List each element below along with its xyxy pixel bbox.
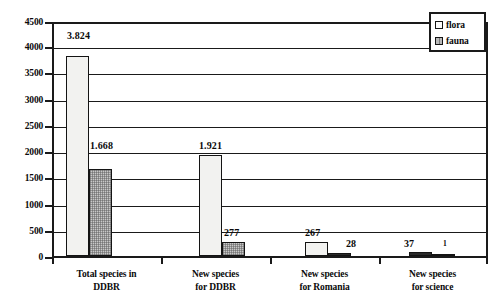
y-tick-mark [45,126,52,128]
legend-item-flora[interactable]: flora [435,17,484,33]
y-tick-label: 500 [29,225,43,238]
x-category-line1: New species [409,269,456,279]
bar-fauna-total-species[interactable] [89,169,112,257]
x-tick-3 [379,258,381,264]
y-tick-mark [45,205,52,207]
y-tick-label: 2500 [25,120,43,133]
value-label-flora-new-ddbr: 1.921 [199,140,222,152]
legend-item-fauna[interactable]: fauna [435,33,484,49]
value-label-fauna-new-romania: 28 [346,238,356,250]
x-tick-2 [270,258,272,264]
legend-label-fauna: fauna [446,35,469,47]
y-tick-label: 4000 [25,41,43,54]
value-label-fauna-new-ddbr: 277 [224,227,239,239]
y-tick-mark [45,231,52,233]
y-tick-mark [45,100,52,102]
value-label-flora-total-species: 3.824 [67,30,90,42]
bar-fauna-new-science[interactable] [432,254,455,256]
x-category-line1: Total species in [77,269,137,279]
y-tick-mark [45,73,52,75]
y-tick-label: 3500 [25,67,43,80]
y-tick-label: 1500 [25,172,43,185]
bar-flora-new-ddbr[interactable] [199,155,222,256]
x-category-line2: for DDBR [161,281,270,294]
legend-label-flora: flora [446,19,465,31]
bar-fauna-new-romania[interactable] [328,253,351,257]
bar-fauna-new-ddbr[interactable] [222,242,245,257]
bar-flora-new-romania[interactable] [305,242,328,256]
bar-flora-new-science[interactable] [409,252,432,256]
y-axis: 0 500 1000 1500 2000 2500 3000 3500 [0,22,52,258]
x-category-line1: New species [192,269,239,279]
value-label-fauna-new-science: 1 [443,238,447,250]
x-category-line1: New species [301,269,348,279]
x-tick-1 [161,258,163,264]
x-category-label-new-science: New species for science [379,268,486,294]
y-tick-label: 2000 [25,146,43,159]
y-tick-mark [45,152,52,154]
flora-swatch-icon [435,21,443,29]
y-tick-mark [45,178,52,180]
bars-layer [52,22,488,258]
x-category-label-total-species: Total species in DDBR [52,268,161,294]
y-tick-label: 0 [38,251,43,264]
fauna-swatch-icon [435,37,443,45]
bar-flora-total-species[interactable] [66,56,89,257]
y-tick-mark [45,257,52,259]
bar-chart: 0 500 1000 1500 2000 2500 3000 3500 [0,0,498,305]
value-label-flora-new-science: 37 [404,238,414,250]
x-category-line2: for Romania [270,281,379,294]
x-category-line2: DDBR [52,281,161,294]
x-axis: Total species in DDBR New species for DD… [52,258,488,305]
y-tick-mark [45,22,52,24]
y-tick-label: 1000 [25,199,43,212]
x-tick-4 [486,258,488,264]
chart-legend: flora fauna [429,12,486,52]
y-tick-label: 4500 [25,16,43,29]
x-tick-0 [52,258,54,264]
x-category-label-new-romania: New species for Romania [270,268,379,294]
y-tick-mark [45,47,52,49]
x-category-line2: for science [379,281,486,294]
y-tick-label: 3000 [25,94,43,107]
value-label-fauna-total-species: 1.668 [90,140,113,152]
x-category-label-new-ddbr: New species for DDBR [161,268,270,294]
value-label-flora-new-romania: 267 [305,227,320,239]
